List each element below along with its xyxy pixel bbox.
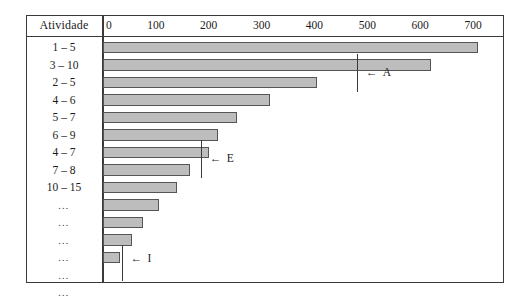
axis-tick-500: 500: [347, 15, 387, 36]
chart-row: …: [26, 249, 504, 267]
bar: [103, 164, 190, 176]
bar: [103, 199, 159, 211]
row-label: 3 – 10: [26, 57, 102, 75]
bar: [103, 77, 317, 89]
row-label: 10 – 15: [26, 179, 102, 197]
row-label: 7 – 8: [26, 162, 102, 180]
row-label: …: [26, 249, 102, 267]
marker-label-a: ←A: [366, 66, 392, 78]
axis-tick-200: 200: [189, 15, 229, 36]
marker-label-text: I: [148, 252, 152, 264]
left-arrow-icon: ←: [131, 252, 143, 264]
marker-label-text: A: [383, 66, 392, 78]
chart-row: …: [26, 284, 504, 300]
activity-column-header: Atividade: [26, 15, 102, 36]
axis-tick-400: 400: [294, 15, 334, 36]
bar: [103, 234, 132, 246]
row-label: 6 – 9: [26, 127, 102, 145]
axis-tick-700: 700: [453, 15, 493, 36]
chart-row: 6 – 9: [26, 127, 504, 145]
chart-row: 2 – 5: [26, 74, 504, 92]
axis-tick-600: 600: [400, 15, 440, 36]
chart-row: 5 – 7: [26, 109, 504, 127]
bar: [103, 147, 209, 159]
bar: [103, 182, 177, 194]
bar: [103, 252, 120, 264]
chart-row: …: [26, 214, 504, 232]
chart-row: 7 – 8: [26, 162, 504, 180]
marker-line-e: [201, 140, 202, 178]
chart-row: …: [26, 197, 504, 215]
marker-label-e: ←E: [210, 152, 235, 164]
bar: [103, 94, 270, 106]
left-arrow-icon: ←: [366, 66, 378, 78]
chart-row: …: [26, 267, 504, 285]
row-label: …: [26, 284, 102, 300]
row-label: 1 – 5: [26, 39, 102, 57]
marker-line-a: [357, 54, 358, 92]
row-label: …: [26, 267, 102, 285]
chart-header: Atividade 0100200300400500600700: [26, 15, 504, 37]
chart-row: 3 – 10: [26, 57, 504, 75]
chart-row: …: [26, 232, 504, 250]
row-label: 4 – 7: [26, 144, 102, 162]
row-label: …: [26, 232, 102, 250]
left-arrow-icon: ←: [210, 152, 222, 164]
marker-line-i: [122, 245, 123, 281]
row-label: 4 – 6: [26, 92, 102, 110]
row-label: 2 – 5: [26, 74, 102, 92]
bar: [103, 129, 218, 141]
row-label: …: [26, 214, 102, 232]
chart-row: 4 – 7: [26, 144, 504, 162]
row-label: …: [26, 197, 102, 215]
chart-row: 4 – 6: [26, 92, 504, 110]
axis-tick-300: 300: [242, 15, 282, 36]
row-label: 5 – 7: [26, 109, 102, 127]
bar: [103, 42, 478, 54]
axis-tick-0: 0: [106, 15, 126, 36]
axis-tick-100: 100: [136, 15, 176, 36]
chart-row: 1 – 5: [26, 39, 504, 57]
marker-label-text: E: [227, 152, 235, 164]
marker-label-i: ←I: [131, 252, 152, 264]
plot-area: 1 – 53 – 102 – 54 – 65 – 76 – 94 – 77 – …: [26, 37, 504, 283]
chart-row: 10 – 15: [26, 179, 504, 197]
bar: [103, 217, 143, 229]
bar: [103, 112, 237, 124]
